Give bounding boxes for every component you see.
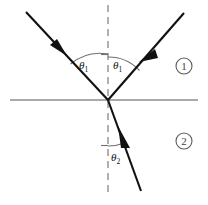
reflected-ray	[108, 13, 184, 100]
angle-of-refraction-label: θ2	[111, 151, 120, 166]
angle-of-incidence-subscript: 1	[84, 65, 88, 74]
angle-of-refraction-subscript: 2	[116, 157, 120, 166]
angle-of-reflection-label: θ1	[113, 59, 122, 74]
optics-diagram: θ1 θ1 θ2 1 2	[0, 0, 208, 205]
region-one-marker: 1	[176, 58, 192, 74]
region-two-label: 2	[181, 135, 187, 147]
reflected-ray-arrowhead	[139, 49, 158, 62]
region-one-label: 1	[181, 60, 187, 72]
diagram-canvas: θ1 θ1 θ2 1 2	[0, 0, 208, 205]
incident-ray	[26, 12, 108, 100]
angle-of-reflection-subscript: 1	[118, 65, 122, 74]
region-two-marker: 2	[176, 133, 192, 149]
